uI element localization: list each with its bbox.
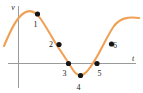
- horizontal-axis-label: t: [132, 54, 135, 63]
- data-point-1: [35, 11, 40, 16]
- graph-canvas: v t 1 2 3 4 5 6: [0, 0, 143, 93]
- data-point-label-4: 4: [77, 83, 81, 92]
- data-point-5: [94, 61, 99, 66]
- vertical-axis-label: v: [11, 3, 15, 12]
- velocity-curve: [4, 11, 139, 75]
- data-point-4: [78, 73, 83, 78]
- data-point-label-5: 5: [98, 69, 102, 78]
- data-point-label-2: 2: [49, 40, 53, 49]
- data-point-label-1: 1: [34, 20, 38, 29]
- data-point-label-3: 3: [63, 69, 67, 78]
- data-point-label-6: 6: [113, 41, 117, 50]
- data-point-2: [56, 42, 61, 47]
- data-point-3: [66, 61, 71, 66]
- velocity-time-figure: v t 1 2 3 4 5 6: [0, 0, 143, 93]
